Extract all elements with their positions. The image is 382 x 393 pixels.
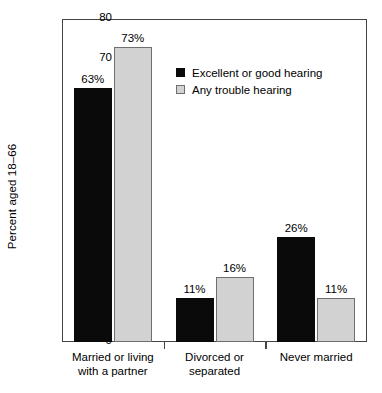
bar-value-label: 63% bbox=[81, 73, 104, 85]
bar: 26% bbox=[277, 237, 315, 342]
x-tick-mark bbox=[164, 342, 165, 349]
bar-value-label: 73% bbox=[121, 32, 144, 44]
bar: 73% bbox=[114, 47, 152, 342]
bar-chart: Percent aged 18–66 01020304050607080 63%… bbox=[0, 0, 382, 393]
x-category-label-line: Married or living bbox=[62, 350, 164, 364]
x-category-label-line: Never married bbox=[265, 350, 367, 364]
x-tick-mark bbox=[265, 342, 266, 349]
bar-value-label: 11% bbox=[325, 283, 347, 295]
x-category-label-line: Divorced or bbox=[164, 350, 266, 364]
bar-value-label: 16% bbox=[223, 262, 246, 274]
bar-value-label: 11% bbox=[183, 283, 205, 295]
chart-legend: Excellent or good hearingAny trouble hea… bbox=[176, 64, 322, 98]
legend-item: Excellent or good hearing bbox=[176, 64, 322, 81]
x-category-label-line: separated bbox=[164, 364, 266, 378]
x-category-label: Married or livingwith a partner bbox=[62, 350, 164, 378]
y-axis-title: Percent aged 18–66 bbox=[0, 0, 24, 393]
x-category-label-line: with a partner bbox=[62, 364, 164, 378]
x-category-label: Divorced orseparated bbox=[164, 350, 266, 378]
legend-swatch-icon bbox=[176, 85, 185, 94]
bar: 16% bbox=[216, 277, 254, 342]
legend-label: Any trouble hearing bbox=[192, 84, 292, 96]
legend-swatch-icon bbox=[176, 68, 185, 77]
bar: 11% bbox=[176, 298, 214, 342]
legend-item: Any trouble hearing bbox=[176, 81, 322, 98]
bar: 11% bbox=[317, 298, 355, 342]
y-tick-label: 70 bbox=[99, 51, 112, 63]
legend-label: Excellent or good hearing bbox=[192, 67, 322, 79]
y-tick-label: 80 bbox=[99, 11, 112, 23]
x-category-label: Never married bbox=[265, 350, 367, 364]
bar-value-label: 26% bbox=[285, 222, 308, 234]
bar: 63% bbox=[74, 88, 112, 342]
